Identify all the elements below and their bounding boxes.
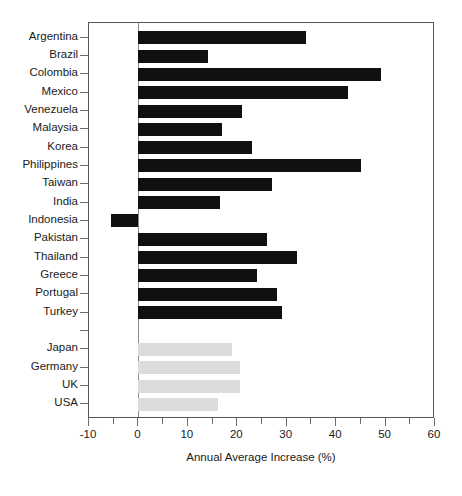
bar <box>138 159 360 172</box>
x-axis-tick-label: 20 <box>213 428 259 440</box>
y-axis-label: Thailand <box>0 250 78 262</box>
bar <box>138 178 271 191</box>
y-axis-label: Greece <box>0 268 78 280</box>
y-axis-label: Taiwan <box>0 176 78 188</box>
x-axis-tick-major <box>385 418 386 426</box>
y-axis-label: Portugal <box>0 286 78 298</box>
bar <box>138 288 276 301</box>
y-axis-label: Venezuela <box>0 103 78 115</box>
x-axis-tick-major <box>434 418 435 426</box>
y-axis-label: Philippines <box>0 158 78 170</box>
y-axis-label: Germany <box>0 360 78 372</box>
bar <box>138 123 222 136</box>
x-axis-tick-label: 30 <box>263 428 309 440</box>
bar <box>138 380 239 393</box>
x-axis-tick-label: 50 <box>362 428 408 440</box>
x-axis-tick-label: 40 <box>312 428 358 440</box>
y-axis-label: Brazil <box>0 48 78 60</box>
plot-area <box>88 22 434 418</box>
y-axis-label: Argentina <box>0 30 78 42</box>
y-axis-label: Malaysia <box>0 121 78 133</box>
bar <box>138 361 239 374</box>
bar <box>138 86 348 99</box>
bar <box>138 68 380 81</box>
y-axis-label: India <box>0 195 78 207</box>
bar <box>138 251 296 264</box>
x-axis-tick-major <box>335 418 336 426</box>
x-axis-tick-major <box>187 418 188 426</box>
bar <box>138 105 242 118</box>
bar <box>138 141 252 154</box>
x-axis-tick-major <box>88 418 89 426</box>
zero-reference-line <box>138 23 139 417</box>
x-axis-tick-major <box>137 418 138 426</box>
x-axis-tick-minor <box>261 418 262 424</box>
y-axis-label: Turkey <box>0 305 78 317</box>
x-axis-tick-label: 60 <box>411 428 457 440</box>
x-axis-tick-major <box>236 418 237 426</box>
bar <box>138 31 306 44</box>
bar-chart: ArgentinaBrazilColombiaMexicoVenezuelaMa… <box>0 0 462 496</box>
y-axis-label: USA <box>0 396 78 408</box>
bar <box>111 214 138 227</box>
y-axis-label: Japan <box>0 341 78 353</box>
bar <box>138 306 281 319</box>
y-axis-label: Pakistan <box>0 231 78 243</box>
bar <box>138 343 232 356</box>
x-axis-title: Annual Average Increase (%) <box>88 451 434 463</box>
x-axis-tick-major <box>286 418 287 426</box>
x-axis-tick-minor <box>360 418 361 424</box>
x-axis-tick-label: 0 <box>114 428 160 440</box>
x-axis-tick-minor <box>212 418 213 424</box>
y-axis-label: UK <box>0 378 78 390</box>
bar <box>138 233 267 246</box>
x-axis-tick-minor <box>162 418 163 424</box>
y-axis-label: Indonesia <box>0 213 78 225</box>
bar <box>138 50 207 63</box>
y-axis-label: Korea <box>0 140 78 152</box>
y-axis-label: Mexico <box>0 85 78 97</box>
bar <box>138 398 217 411</box>
x-axis-tick-label: -10 <box>65 428 111 440</box>
bar <box>138 269 257 282</box>
x-axis-tick-minor <box>409 418 410 424</box>
bar <box>138 196 220 209</box>
y-axis-label: Colombia <box>0 66 78 78</box>
y-axis-labels: ArgentinaBrazilColombiaMexicoVenezuelaMa… <box>0 22 78 418</box>
x-axis-tick-minor <box>113 418 114 424</box>
x-axis-tick-minor <box>310 418 311 424</box>
x-axis-tick-label: 10 <box>164 428 210 440</box>
